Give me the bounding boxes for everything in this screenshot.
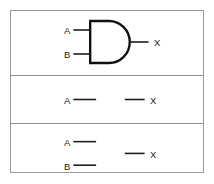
and-gate-output-x-label: X [154,38,160,48]
and-gate-drawing [11,11,203,75]
and-gate-input-b-label: B [64,50,70,60]
blank-two-output-x-label: X [150,150,156,160]
and-gate-panel: A B X [11,11,203,75]
blank-one-output-x-label: X [150,96,156,106]
blank-one-input-a-label: A [64,96,70,106]
figure-frame: A B X A X A B [10,10,204,173]
and-gate-symbol [90,21,130,63]
blank-two-input-b-label: B [64,162,70,172]
blank-two-input-a-label: A [64,138,70,148]
blank-two-input-panel: A B X [11,123,203,174]
logic-gate-figure: A B X A X A B [0,0,214,184]
and-gate-input-a-label: A [64,26,70,36]
blank-one-input-drawing [11,76,203,123]
blank-two-input-drawing [11,124,203,174]
blank-one-input-panel: A X [11,75,203,123]
